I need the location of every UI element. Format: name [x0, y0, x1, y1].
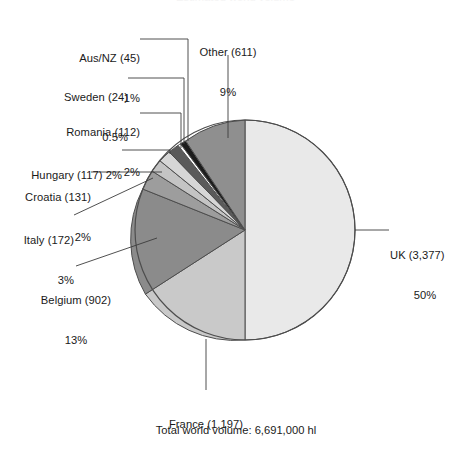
- total-volume-note: Total world volume: 6,691,000 hl: [116, 424, 356, 437]
- label-croatia-line1: Croatia (131): [0, 191, 91, 204]
- label-other-line1: Other (611): [192, 46, 264, 59]
- pie-chart-figure: Estimated world volume: [0, 0, 471, 453]
- label-uk-line1: UK (3,377): [390, 249, 471, 262]
- label-uk-line2: 50%: [390, 289, 460, 302]
- label-other-line2: 9%: [192, 86, 264, 99]
- label-romania-line1: Romania (112): [0, 126, 140, 139]
- pie-slices: [131, 120, 355, 340]
- label-other: Other (611) 9%: [192, 20, 264, 126]
- label-ausnz-line1: Aus/NZ (45): [0, 52, 140, 65]
- leader-line-romania: [140, 113, 181, 148]
- pie-slice-uk[interactable]: [245, 120, 355, 340]
- label-italy-line1: Italy (172): [0, 234, 74, 247]
- label-belgium-line1: Belgium (902): [14, 294, 138, 307]
- label-uk: UK (3,377) 50%: [390, 223, 471, 329]
- label-france: France (1,197) 18%: [143, 392, 269, 453]
- label-belgium-line2: 13%: [14, 334, 138, 347]
- label-belgium: Belgium (902) 13%: [14, 268, 138, 374]
